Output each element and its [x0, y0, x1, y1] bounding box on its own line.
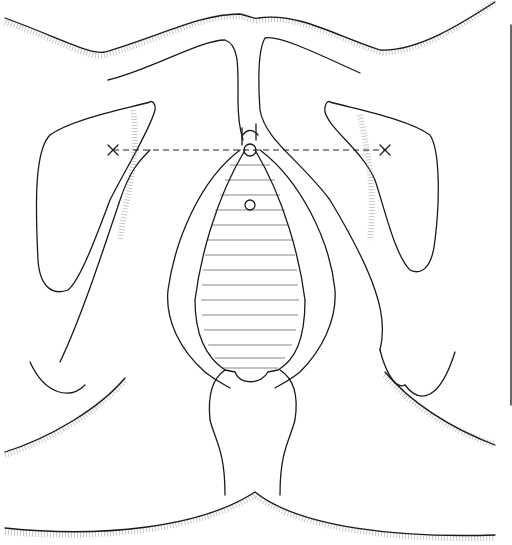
right-labium-outer — [260, 150, 335, 388]
left-inner-fold — [108, 40, 243, 140]
right-lower-crease — [385, 372, 495, 445]
inner-region — [195, 150, 305, 382]
left-labium-outer — [168, 150, 240, 388]
hatching — [201, 165, 299, 368]
right-x-mark — [380, 145, 390, 155]
anatomical-drawing — [0, 0, 512, 545]
left-lower-crease — [5, 378, 125, 452]
left-lateral-loop — [36, 101, 155, 291]
left-outer-curve — [60, 150, 150, 362]
middle-small-circle — [245, 200, 255, 210]
bottom-contour — [5, 492, 495, 536]
right-lateral-loop — [325, 101, 438, 271]
illustration — [0, 0, 512, 545]
right-lower-tube — [280, 370, 296, 495]
left-lower-tube — [209, 370, 225, 495]
